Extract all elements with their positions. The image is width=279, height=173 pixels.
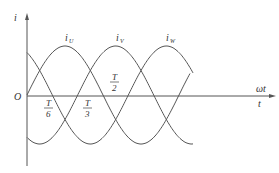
curve-iw [27,46,193,144]
svg-text:V: V [120,38,125,44]
x-axis-arrow-icon [269,94,276,98]
svg-text:T: T [46,98,52,108]
label-iw: i W [166,32,176,44]
y-axis-label: i [14,12,17,23]
svg-text:2: 2 [112,83,117,93]
tick-t-over-3: T 3 [83,98,92,119]
tick-t-over-6: T 6 [44,98,53,119]
x-axis-label-omega-t: ωt [256,83,266,94]
svg-text:W: W [170,38,176,44]
y-axis-arrow-icon [25,13,29,20]
origin-label: O [14,91,21,102]
svg-text:U: U [69,38,74,44]
svg-text:6: 6 [46,109,51,119]
three-phase-waveform-diagram: i O ωt t i U i V i W T 6 T 3 T 2 [0,0,279,173]
svg-text:i: i [166,32,169,43]
svg-text:T: T [85,98,91,108]
label-iu: i U [65,32,74,44]
svg-text:3: 3 [84,109,90,119]
x-axis-label-t: t [258,98,261,109]
label-iv: i V [116,32,125,44]
svg-text:T: T [112,72,118,82]
tick-t-over-2: T 2 [110,72,119,93]
svg-text:i: i [65,32,68,43]
svg-text:i: i [116,32,119,43]
curve-iu [27,46,190,144]
